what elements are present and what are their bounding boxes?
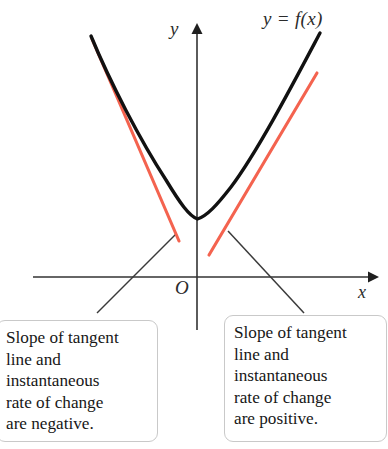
leader-line-left (97, 234, 176, 313)
function-equation-label: y = f(x) (263, 8, 323, 30)
callout-left-line-1: Slope of tangent (6, 327, 150, 349)
tangent-line-positive (209, 73, 317, 255)
x-axis-label: x (358, 283, 366, 301)
x-axis-arrowhead (368, 272, 379, 283)
callout-left-line-4: rate of change (6, 392, 150, 414)
callout-left-line-5: are negative. (6, 413, 150, 435)
callout-right-line-5: are positive. (234, 408, 379, 430)
callout-right-line-3: instantaneous (234, 365, 379, 387)
callout-left-line-3: instantaneous (6, 370, 150, 392)
leader-line-right (228, 231, 304, 313)
callout-right-line-2: line and (234, 344, 379, 366)
callout-right-line-4: rate of change (234, 387, 379, 409)
y-axis-label: y (170, 19, 178, 38)
callout-right-line-1: Slope of tangent (234, 322, 379, 344)
y-axis-arrowhead (192, 23, 203, 34)
x-axis (33, 272, 379, 283)
callout-left-line-2: line and (6, 349, 150, 371)
y-axis (192, 23, 203, 330)
figure-container: y x O y = f(x) Slope of tangent line and… (0, 0, 388, 449)
negative-slope-callout: Slope of tangent line and instantaneous … (0, 320, 158, 442)
positive-slope-callout: Slope of tangent line and instantaneous … (224, 315, 387, 442)
origin-label: O (175, 278, 189, 297)
